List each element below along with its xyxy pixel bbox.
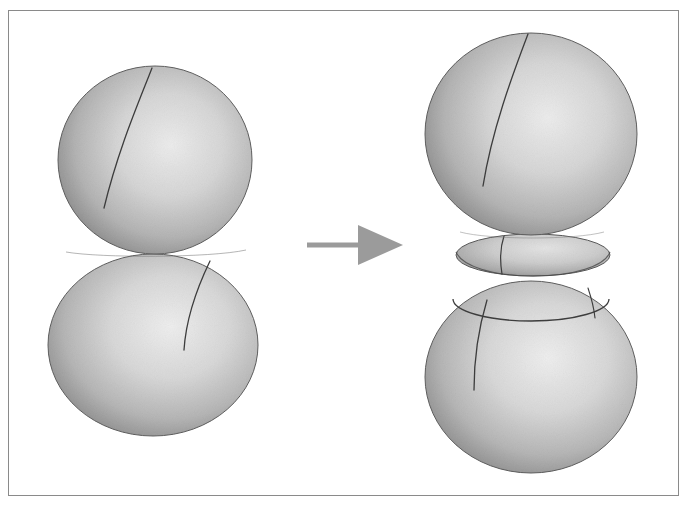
lens-body [456, 234, 610, 276]
figure-root: Two tangent spheres transformed into a n… [0, 0, 687, 508]
diagram-canvas [0, 0, 687, 508]
left-upper-sphere [58, 66, 252, 254]
neck-separated-spheres-after [425, 33, 637, 473]
right-upper-sphere [425, 33, 637, 235]
tangent-spheres-before [48, 66, 258, 436]
sphere-body [48, 254, 258, 436]
right-lower-sphere [425, 281, 637, 473]
sphere-body [425, 281, 637, 473]
sphere-body [425, 33, 637, 235]
right-middle-neck-lens [456, 234, 610, 276]
left-lower-sphere [48, 254, 258, 436]
sphere-body [58, 66, 252, 254]
